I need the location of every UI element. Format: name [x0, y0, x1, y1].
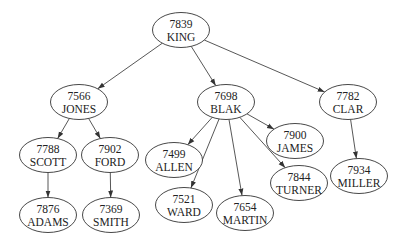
node-id: 7654	[234, 201, 257, 213]
node-clar: 7782CLAR	[320, 85, 377, 120]
node-name: KING	[167, 31, 196, 43]
node-name: FORD	[95, 156, 126, 168]
employee-hierarchy-tree: 7839KING7566JONES7698BLAK7782CLAR7788SCO…	[0, 0, 402, 249]
node-name: WARD	[167, 206, 201, 218]
node-smith: 7369SMITH	[83, 198, 140, 233]
node-allen: 7499ALLEN	[146, 143, 203, 178]
node-miller: 7934MILLER	[331, 159, 388, 194]
node-id: 7788	[37, 143, 60, 155]
edge-7566-to-7788	[58, 118, 70, 138]
node-martin: 7654MARTIN	[217, 196, 274, 231]
node-james: 7900JAMES	[267, 124, 324, 159]
nodes-layer: 7839KING7566JONES7698BLAK7782CLAR7788SCO…	[20, 13, 388, 233]
edge-7839-to-7782	[204, 40, 324, 92]
node-id: 7876	[37, 203, 60, 215]
node-id: 7698	[215, 90, 238, 102]
edge-7566-to-7902	[89, 118, 101, 138]
node-name: ADAMS	[27, 216, 69, 228]
node-id: 7369	[100, 203, 123, 215]
node-id: 7934	[348, 164, 371, 176]
node-id: 7566	[68, 90, 91, 102]
edge-7698-to-7499	[188, 117, 213, 144]
node-name: TURNER	[276, 184, 322, 196]
node-blak: 7698BLAK	[198, 85, 255, 120]
node-name: SMITH	[93, 216, 129, 228]
node-name: BLAK	[210, 103, 242, 115]
node-scott: 7788SCOTT	[20, 138, 77, 173]
node-name: MARTIN	[223, 214, 268, 226]
node-king: 7839KING	[153, 13, 210, 48]
node-name: JAMES	[277, 142, 313, 154]
node-ward: 7521WARD	[156, 188, 213, 223]
node-name: ALLEN	[155, 161, 193, 173]
edge-7839-to-7566	[98, 43, 163, 89]
edge-7698-to-7654	[229, 119, 242, 195]
node-id: 7499	[163, 148, 186, 160]
edge-7698-to-7900	[247, 114, 274, 129]
node-name: MILLER	[338, 177, 381, 189]
node-adams: 7876ADAMS	[20, 198, 77, 233]
node-id: 7902	[99, 143, 122, 155]
node-ford: 7902FORD	[82, 138, 139, 173]
node-id: 7900	[284, 129, 307, 141]
edge-7839-to-7698	[191, 46, 216, 85]
node-id: 7521	[173, 193, 196, 205]
edge-7782-to-7934	[351, 119, 357, 158]
node-name: CLAR	[333, 103, 364, 115]
node-turner: 7844TURNER	[271, 166, 328, 201]
node-name: JONES	[62, 103, 97, 115]
node-id: 7839	[170, 18, 193, 30]
node-id: 7782	[337, 90, 360, 102]
node-name: SCOTT	[30, 156, 66, 168]
node-id: 7844	[288, 171, 311, 183]
node-jones: 7566JONES	[51, 85, 108, 120]
